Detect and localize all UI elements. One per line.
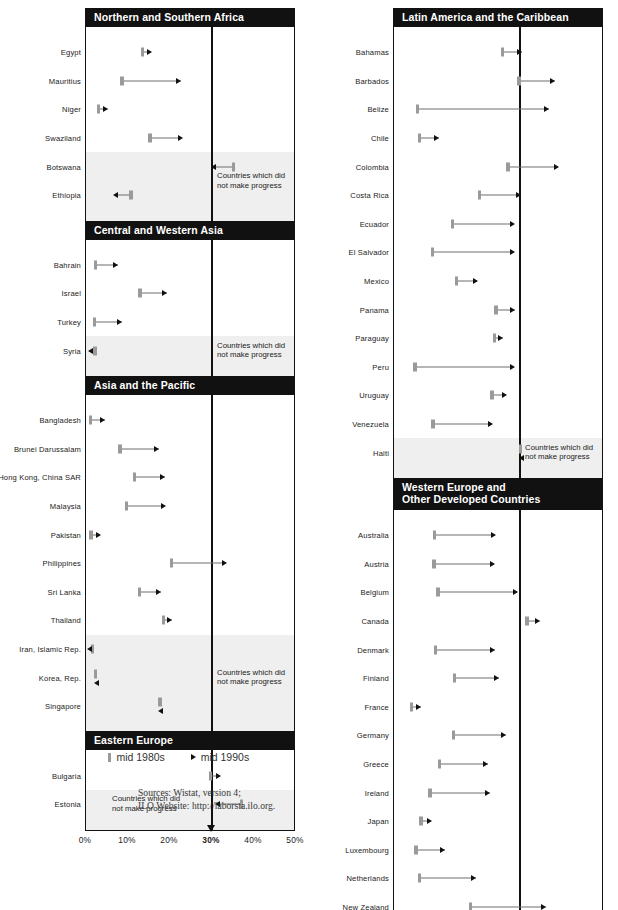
mid-1980s-marker	[141, 48, 144, 57]
change-connector	[421, 878, 476, 879]
country-label: Egypt	[61, 48, 81, 57]
axis-baseline	[85, 830, 295, 831]
country-label: Greece	[363, 759, 389, 768]
mid-1980s-marker	[431, 420, 434, 429]
mid-1990s-marker	[161, 503, 166, 509]
mid-1990s-marker	[502, 392, 507, 398]
mid-1980s-marker	[452, 731, 455, 740]
mid-1980s-marker	[494, 305, 497, 314]
change-connector	[439, 592, 517, 593]
chart-row: Japan	[394, 807, 602, 836]
mid-1980s-marker	[519, 444, 522, 453]
mid-1990s-marker	[88, 348, 93, 354]
mid-1990s-marker	[147, 49, 152, 55]
country-label: Hong Kong, China SAR	[0, 473, 81, 482]
mid-1990s-marker	[440, 847, 445, 853]
country-label: France	[364, 702, 389, 711]
mid-1980s-marker	[490, 391, 493, 400]
chart-row: Hong Kong, China SAR	[86, 463, 294, 492]
country-label: Canada	[361, 616, 389, 625]
section-plot: BahrainIsraelTurkeySyriaCountries which …	[85, 240, 295, 376]
x-axis: 0%10%20%30%40%50%	[85, 830, 295, 850]
mid-1990s-marker	[488, 421, 493, 427]
mid-1990s-arrow-icon	[191, 754, 196, 760]
chart-row: Netherlands	[394, 864, 602, 893]
change-connector	[509, 166, 558, 167]
thirty-percent-arrow-icon	[207, 825, 215, 832]
mid-1990s-marker	[427, 818, 432, 824]
mid-1980s-marker	[419, 817, 422, 826]
change-connector	[471, 906, 545, 907]
chart-section: Western Europe andOther Developed Countr…	[393, 478, 603, 910]
section-header-line-1: Western Europe and	[402, 481, 603, 494]
chart-row: Pakistan	[86, 520, 294, 549]
mid-1990s-marker	[501, 732, 506, 738]
section-plot: BahamasBarbadosBelizeChileColombiaCosta …	[393, 27, 603, 478]
mid-1990s-marker	[100, 417, 105, 423]
mid-1980s-marker	[148, 134, 151, 143]
legend-label-mid-1990s: mid 1990s	[201, 751, 249, 763]
chart-row: Venezuela	[394, 410, 602, 439]
mid-1990s-marker	[485, 790, 490, 796]
country-label: Sri Lanka	[48, 587, 81, 596]
mid-1980s-marker	[501, 48, 504, 57]
mid-1990s-marker	[434, 135, 439, 141]
country-label: Germany	[357, 731, 389, 740]
chart-row: Belize	[394, 95, 602, 124]
mid-1980s-marker	[129, 191, 132, 200]
mid-1990s-marker	[554, 164, 559, 170]
mid-1990s-marker	[113, 262, 118, 268]
mid-1990s-marker	[158, 708, 163, 714]
mid-1980s-marker	[414, 845, 417, 854]
country-label: Japan	[368, 817, 389, 826]
mid-1990s-marker	[416, 704, 421, 710]
right-chart: Latin America and the CaribbeanBahamasBa…	[393, 8, 603, 910]
mid-1980s-marker	[125, 502, 128, 511]
country-label: Bangladesh	[39, 416, 81, 425]
mid-1980s-marker	[432, 559, 435, 568]
section-header: Western Europe andOther Developed Countr…	[393, 478, 603, 510]
chart-row: Denmark	[394, 635, 602, 664]
change-connector	[173, 563, 227, 564]
sources-line-2: ILO Website: http://laborsta.ilo.org.	[138, 800, 275, 813]
country-label: Belize	[367, 105, 389, 114]
country-label: Austria	[364, 559, 389, 568]
chart-row: Niger	[86, 95, 294, 124]
country-label: Panama	[360, 305, 389, 314]
country-label: Ethiopia	[52, 191, 81, 200]
mid-1990s-marker	[491, 532, 496, 538]
mid-1990s-marker	[510, 307, 515, 313]
mid-1980s-marker	[209, 771, 212, 780]
mid-1990s-marker	[162, 290, 167, 296]
no-progress-note-line-2: not make progress	[217, 677, 303, 687]
country-label: El Salvador	[349, 248, 389, 257]
country-label: New Zealand	[343, 902, 389, 910]
mid-1980s-marker	[455, 277, 458, 286]
mid-1980s-marker	[469, 902, 472, 910]
mid-1980s-marker	[410, 702, 413, 711]
mid-1990s-marker	[113, 192, 118, 198]
country-label: Paraguay	[355, 334, 389, 343]
mid-1990s-marker	[160, 474, 165, 480]
mid-1990s-marker	[517, 49, 522, 55]
mid-1980s-marker	[428, 788, 431, 797]
change-connector	[480, 195, 520, 196]
mid-1990s-marker	[510, 249, 515, 255]
country-label: Peru	[372, 362, 389, 371]
mid-1990s-marker	[156, 589, 161, 595]
mid-1990s-marker	[483, 761, 488, 767]
chart-row: Belgium	[394, 578, 602, 607]
no-progress-note-line-2: not make progress	[217, 181, 303, 191]
country-label: Australia	[358, 531, 389, 540]
legend-label-mid-1980s: mid 1980s	[116, 751, 164, 763]
change-connector	[121, 448, 159, 449]
chart-section: Asia and the PacificBangladeshBrunei Dar…	[85, 376, 295, 732]
mid-1990s-marker	[222, 560, 227, 566]
no-progress-note: Countries which didnot make progress	[217, 171, 303, 190]
mid-1990s-marker	[510, 364, 515, 370]
country-label: Iran, Islamic Rep.	[19, 644, 81, 653]
change-connector	[127, 506, 165, 507]
change-connector	[455, 735, 506, 736]
chart-row: Israel	[86, 279, 294, 308]
mid-1990s-marker	[87, 646, 92, 652]
